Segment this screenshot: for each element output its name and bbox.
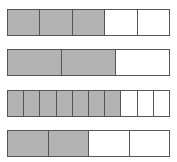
- shaded-segment: [57, 91, 73, 116]
- shaded-segment: [40, 91, 56, 116]
- fraction-bar-3: [7, 90, 170, 117]
- empty-segment: [116, 50, 169, 75]
- empty-segment: [138, 91, 154, 116]
- shaded-segment: [89, 91, 105, 116]
- shaded-segment: [73, 10, 105, 35]
- shaded-segment: [24, 91, 40, 116]
- shaded-segment: [40, 10, 72, 35]
- empty-segment: [105, 10, 137, 35]
- shaded-segment: [105, 91, 121, 116]
- empty-segment: [130, 131, 170, 156]
- empty-segment: [89, 131, 130, 156]
- shaded-segment: [8, 50, 62, 75]
- fraction-bar-1: [7, 9, 170, 36]
- shaded-segment: [62, 50, 116, 75]
- shaded-segment: [8, 131, 49, 156]
- shaded-segment: [73, 91, 89, 116]
- fraction-bar-2: [7, 49, 170, 76]
- empty-segment: [138, 10, 169, 35]
- shaded-segment: [8, 91, 24, 116]
- empty-segment: [121, 91, 137, 116]
- shaded-segment: [8, 10, 40, 35]
- shaded-segment: [49, 131, 90, 156]
- empty-segment: [154, 91, 169, 116]
- fraction-bar-4: [7, 130, 170, 157]
